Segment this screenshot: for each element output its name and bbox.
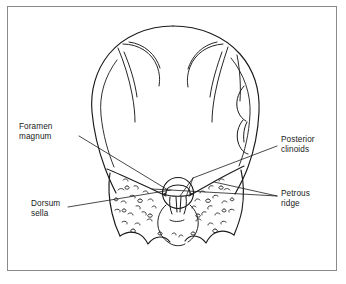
posterior-clinoids [170, 197, 187, 214]
clivus-region [158, 205, 198, 246]
figure-root: Foramen magnum Dorsum sella Posterior cl… [0, 0, 346, 284]
cranial-vault-outline [92, 26, 259, 194]
inner-table-line [101, 58, 250, 167]
label-foramen-magnum: Foramen magnum [19, 122, 52, 142]
label-petrous-ridge: Petrous ridge [281, 189, 310, 209]
foramen-magnum [163, 178, 194, 209]
label-dorsum-sella: Dorsum sella [31, 199, 60, 219]
label-posterior-clinoids: Posterior clinoids [281, 135, 315, 155]
sutural-lines [118, 42, 240, 122]
petrous-ridge-left [107, 169, 170, 244]
